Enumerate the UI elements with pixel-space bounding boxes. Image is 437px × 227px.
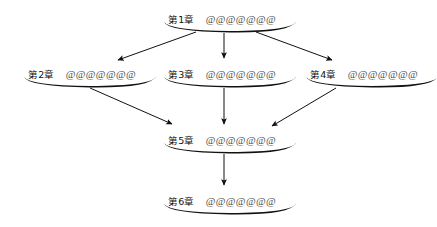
node-ch3: 第3章@@@@@@@ (168, 65, 276, 81)
node-ch5: 第5章@@@@@@@ (168, 131, 276, 147)
node-ch6: 第6章@@@@@@@ (168, 192, 276, 208)
node-ch1-at-text: @@@@@@@ (206, 14, 277, 25)
node-ch5-chapter: 第5章 (168, 135, 195, 146)
node-ch2-chapter: 第2章 (28, 69, 55, 80)
edge-ch1-ch2 (118, 32, 196, 60)
edge-ch2-ch5 (90, 88, 172, 124)
node-ch4-chapter: 第4章 (310, 69, 337, 80)
node-ch2-at-text: @@@@@@@ (66, 69, 137, 80)
node-ch6-at-text: @@@@@@@ (206, 196, 277, 207)
edge-ch1-ch4 (256, 32, 332, 60)
node-ch4: 第4章@@@@@@@ (310, 65, 418, 81)
node-ch5-at-text: @@@@@@@ (206, 135, 277, 146)
node-ch4-at-text: @@@@@@@ (348, 69, 419, 80)
node-ch3-chapter: 第3章 (168, 69, 195, 80)
node-ch2: 第2章@@@@@@@ (28, 65, 136, 81)
node-ch6-chapter: 第6章 (168, 196, 195, 207)
edge-ch4-ch5 (272, 88, 336, 126)
node-ch3-at-text: @@@@@@@ (206, 69, 277, 80)
node-underlines (24, 22, 437, 215)
node-ch1: 第1章@@@@@@@ (168, 10, 276, 26)
flowchart-diagram: 第1章@@@@@@@ 第2章@@@@@@@ 第3章@@@@@@@ 第4章@@@@… (0, 0, 437, 227)
node-ch1-chapter: 第1章 (168, 14, 195, 25)
